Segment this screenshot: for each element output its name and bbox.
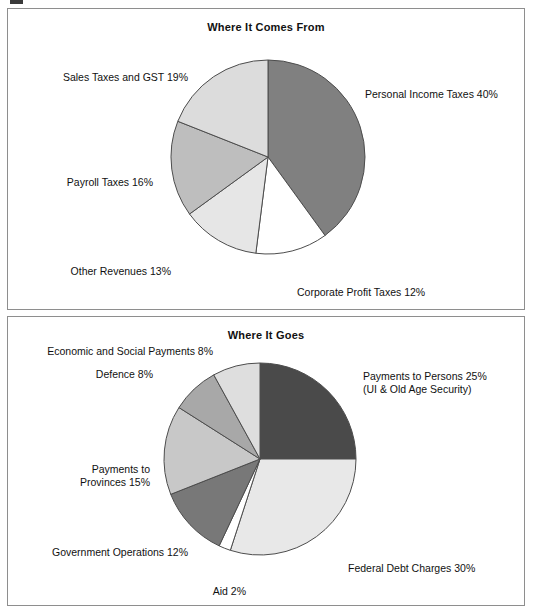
pie-bottom-svg: Payments to Persons 25% (UI & Old Age Se… <box>160 359 360 559</box>
pie-slice: Payments to Persons 25% (UI & Old Age Se… <box>260 363 356 459</box>
label-payments-to-persons-line1: Payments to Persons 25% <box>363 370 487 383</box>
pie-top-svg: Personal Income Taxes 40%Corporate Profi… <box>168 57 368 257</box>
label-payments-to-provinces-line2: Provinces 15% <box>28 476 150 489</box>
panel-title-where-it-comes-from: Where It Comes From <box>8 21 524 33</box>
label-personal-income-taxes: Personal Income Taxes 40% <box>365 88 498 101</box>
label-aid: Aid 2% <box>176 585 246 598</box>
label-federal-debt-charges: Federal Debt Charges 30% <box>348 562 475 575</box>
label-payments-to-persons-line2: (UI & Old Age Security) <box>363 383 472 396</box>
pie-chart-where-it-comes-from: Personal Income Taxes 40%Corporate Profi… <box>168 57 368 257</box>
label-payroll-taxes: Payroll Taxes 16% <box>33 176 153 189</box>
label-economic-and-social-payments: Economic and Social Payments 8% <box>13 345 213 358</box>
pie-chart-where-it-goes: Payments to Persons 25% (UI & Old Age Se… <box>160 359 360 559</box>
label-corporate-profit-taxes: Corporate Profit Taxes 12% <box>297 286 425 299</box>
label-payments-to-provinces-line1: Payments to <box>28 463 150 476</box>
cropped-figure-label-remnant <box>10 0 23 4</box>
panel-where-it-goes: Where It Goes Payments to Persons 25% (U… <box>7 316 525 606</box>
figure-two-pie-charts: Where It Comes From Personal Income Taxe… <box>0 0 534 611</box>
label-government-operations: Government Operations 12% <box>18 546 188 559</box>
label-defence: Defence 8% <box>38 368 153 381</box>
label-sales-taxes-and-gst: Sales Taxes and GST 19% <box>18 71 188 84</box>
panel-title-where-it-goes: Where It Goes <box>8 329 524 341</box>
panel-where-it-comes-from: Where It Comes From Personal Income Taxe… <box>7 8 525 310</box>
label-other-revenues: Other Revenues 13% <box>41 265 171 278</box>
